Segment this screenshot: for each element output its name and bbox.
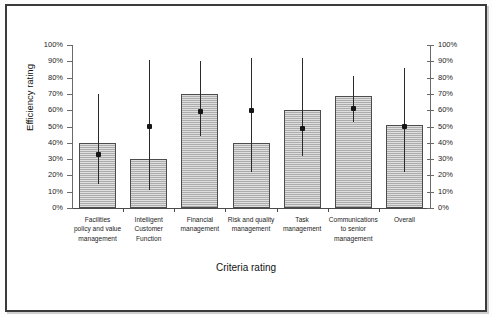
y-axis-title: Efficiency rating bbox=[24, 33, 35, 163]
y-axis-left-tick bbox=[67, 45, 73, 46]
x-axis-category-tick bbox=[328, 208, 329, 212]
chart-figure: 100%100%90%90%80%80%70%70%60%60%50%50%40… bbox=[0, 0, 492, 317]
x-axis-category-label: Financialmanagement bbox=[174, 215, 225, 234]
y-axis-right-tick-label: 60% bbox=[438, 106, 453, 114]
x-axis-category-tick bbox=[225, 208, 226, 212]
y-axis-left-tick-label: 80% bbox=[48, 74, 63, 82]
y-axis-left-tick-label: 40% bbox=[48, 139, 63, 147]
x-axis-category-tick bbox=[174, 208, 175, 212]
y-axis-right-tick-label: 0% bbox=[438, 204, 449, 212]
x-axis-category-label-line: to senior bbox=[328, 224, 379, 233]
y-axis-right-tick bbox=[427, 208, 434, 209]
error-bar-whisker bbox=[200, 61, 201, 136]
x-axis-category-label-line: Communications bbox=[328, 215, 379, 224]
error-bar-marker bbox=[147, 124, 152, 129]
y-axis-left-tick bbox=[67, 175, 73, 176]
y-axis-right-tick-label: 50% bbox=[438, 123, 453, 131]
x-axis-category-label-line: Customer bbox=[123, 224, 174, 233]
x-axis-category-label-line: Overall bbox=[379, 215, 430, 224]
x-axis-category-label-line: policy and value bbox=[72, 224, 123, 233]
error-bar-marker bbox=[300, 126, 305, 131]
x-axis-category-label-line: management bbox=[225, 224, 276, 233]
y-axis-left-tick-label: 100% bbox=[44, 41, 63, 49]
y-axis-right-tick bbox=[427, 175, 434, 176]
y-axis-left-tick bbox=[67, 110, 73, 111]
y-axis-left-tick-label: 50% bbox=[48, 123, 63, 131]
y-axis-right-tick bbox=[427, 192, 434, 193]
x-axis-category-label-line: Financial bbox=[174, 215, 225, 224]
y-axis-left-tick bbox=[67, 143, 73, 144]
error-bar-whisker bbox=[353, 76, 354, 122]
x-axis-category-tick bbox=[123, 208, 124, 212]
y-axis-right-tick-label: 10% bbox=[438, 188, 453, 196]
error-bar-marker bbox=[351, 106, 356, 111]
x-axis-category-label-line: management bbox=[174, 224, 225, 233]
x-axis-category-label-line: management bbox=[72, 234, 123, 243]
y-axis-left-tick-label: 0% bbox=[52, 204, 63, 212]
y-axis-left-tick bbox=[67, 159, 73, 160]
y-axis-right-tick bbox=[427, 94, 434, 95]
y-axis-right-tick bbox=[427, 143, 434, 144]
y-axis-left-tick-label: 30% bbox=[48, 155, 63, 163]
x-axis-category-label: Facilitiespolicy and valuemanagement bbox=[72, 215, 123, 243]
y-axis-right-tick-label: 40% bbox=[438, 139, 453, 147]
x-axis-title: Criteria rating bbox=[0, 262, 492, 273]
x-axis-category-label: Overall bbox=[379, 215, 430, 224]
x-axis-category-label-line: management bbox=[328, 234, 379, 243]
error-bar-marker bbox=[96, 152, 101, 157]
y-axis-right-tick bbox=[427, 78, 434, 79]
y-axis-right-tick bbox=[427, 159, 434, 160]
y-axis-right-tick bbox=[427, 110, 434, 111]
x-axis-category-label: Taskmanagement bbox=[277, 215, 328, 234]
y-axis-left-tick bbox=[67, 127, 73, 128]
y-axis-left-tick-label: 10% bbox=[48, 188, 63, 196]
x-axis-category-label-line: Facilities bbox=[72, 215, 123, 224]
y-axis-right-tick bbox=[427, 127, 434, 128]
y-axis-right-tick bbox=[427, 61, 434, 62]
y-axis-left-tick-label: 90% bbox=[48, 57, 63, 65]
x-axis-category-label: Communicationsto seniormanagement bbox=[328, 215, 379, 243]
x-axis-category-label-line: Task bbox=[277, 215, 328, 224]
x-axis-category-tick bbox=[379, 208, 380, 212]
x-axis-category-label: IntelligentCustomerFunction bbox=[123, 215, 174, 243]
y-axis-right-tick-label: 100% bbox=[438, 41, 457, 49]
y-axis-left-tick-label: 60% bbox=[48, 106, 63, 114]
y-axis-right-tick-label: 80% bbox=[438, 74, 453, 82]
y-axis-left-tick-label: 20% bbox=[48, 171, 63, 179]
x-axis-category-label-line: Risk and quality bbox=[225, 215, 276, 224]
y-axis-left-tick bbox=[67, 78, 73, 79]
x-axis-category-label-line: Intelligent bbox=[123, 215, 174, 224]
error-bar-marker bbox=[402, 124, 407, 129]
y-axis-right-tick bbox=[427, 45, 434, 46]
y-axis-left-tick-label: 70% bbox=[48, 90, 63, 98]
error-bar-whisker bbox=[251, 58, 252, 172]
error-bar-whisker bbox=[98, 94, 99, 184]
x-axis-category-label-line: Function bbox=[123, 234, 174, 243]
y-axis-right-tick-label: 30% bbox=[438, 155, 453, 163]
error-bar-marker bbox=[249, 108, 254, 113]
x-axis-category-label: Risk and qualitymanagement bbox=[225, 215, 276, 234]
x-axis-category-label-line: management bbox=[277, 224, 328, 233]
y-axis-right-tick-label: 90% bbox=[438, 57, 453, 65]
y-axis-right-tick-label: 70% bbox=[438, 90, 453, 98]
error-bar-whisker bbox=[302, 58, 303, 156]
y-axis-left-tick bbox=[67, 94, 73, 95]
y-axis-right-tick-label: 20% bbox=[438, 171, 453, 179]
error-bar-whisker bbox=[404, 68, 405, 172]
y-axis-left-tick bbox=[67, 61, 73, 62]
y-axis-left-tick bbox=[67, 208, 73, 209]
x-axis-category-tick bbox=[277, 208, 278, 212]
x-axis-baseline bbox=[72, 208, 431, 209]
error-bar-marker bbox=[198, 109, 203, 114]
y-axis-left-tick bbox=[67, 192, 73, 193]
